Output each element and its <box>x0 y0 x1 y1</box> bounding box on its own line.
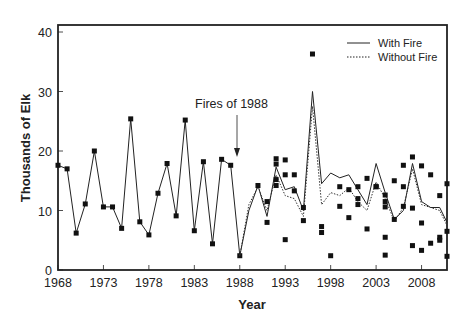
data-point-marker <box>428 172 433 177</box>
x-tick-label: 1993 <box>271 276 299 290</box>
data-point-marker <box>437 238 442 243</box>
data-point-marker <box>283 157 288 162</box>
legend-without-fire: Without Fire <box>378 51 437 63</box>
data-point-marker <box>383 193 388 198</box>
series-line <box>240 106 447 255</box>
data-point-marker <box>445 181 450 186</box>
legend-with-fire: With Fire <box>378 37 422 49</box>
data-point-marker <box>319 230 324 235</box>
chart-canvas: 010203040 196819731978198319881993199820… <box>0 0 464 326</box>
y-tick-label: 40 <box>38 26 52 40</box>
data-point-marker <box>228 163 233 168</box>
data-point-marker <box>419 248 424 253</box>
data-point-marker <box>355 184 360 189</box>
data-point-marker <box>346 215 351 220</box>
data-series <box>56 52 450 259</box>
data-point-marker <box>292 172 297 177</box>
legend: With Fire Without Fire <box>347 37 437 63</box>
data-point-marker <box>383 204 388 209</box>
data-point-marker <box>410 243 415 248</box>
data-point-marker <box>428 241 433 246</box>
data-point-marker <box>265 220 270 225</box>
data-point-marker <box>319 224 324 229</box>
data-point-marker <box>419 220 424 225</box>
data-point-marker <box>283 237 288 242</box>
data-point-marker <box>401 163 406 168</box>
data-point-marker <box>283 172 288 177</box>
data-point-marker <box>383 199 388 204</box>
data-point-marker <box>355 196 360 201</box>
data-point-marker <box>146 232 151 237</box>
x-tick-label: 2003 <box>362 276 390 290</box>
data-point-marker <box>219 157 224 162</box>
data-point-marker <box>445 254 450 259</box>
data-point-marker <box>410 206 415 211</box>
data-point-marker <box>310 52 315 57</box>
data-point-marker <box>255 183 260 188</box>
x-axis-title: Year <box>238 297 265 312</box>
annotation-label: Fires of 1988 <box>195 97 268 111</box>
data-point-marker <box>392 217 397 222</box>
data-point-marker <box>128 116 133 121</box>
x-axis: 196819731978198319881993199820032008 <box>44 265 435 290</box>
y-axis: 010203040 <box>38 26 63 278</box>
data-point-marker <box>119 226 124 231</box>
data-point-marker <box>210 241 215 246</box>
y-axis-title: Thousands of Elk <box>18 93 33 202</box>
data-point-marker <box>383 253 388 258</box>
data-point-marker <box>137 219 142 224</box>
y-tick-label: 10 <box>38 205 52 219</box>
elk-population-chart: 010203040 196819731978198319881993199820… <box>0 0 464 326</box>
fires-1988-annotation: Fires of 1988 <box>195 97 268 157</box>
x-tick-label: 1983 <box>180 276 208 290</box>
data-point-marker <box>56 163 61 168</box>
data-point-marker <box>401 204 406 209</box>
data-point-marker <box>165 161 170 166</box>
data-point-marker <box>274 162 279 167</box>
series-with-fire <box>240 92 447 256</box>
data-point-marker <box>192 228 197 233</box>
x-tick-label: 2008 <box>408 276 436 290</box>
data-point-marker <box>346 187 351 192</box>
data-point-marker <box>274 156 279 161</box>
series-observed-pre-1988- <box>56 116 243 258</box>
data-point-marker <box>365 176 370 181</box>
series-line <box>240 92 447 256</box>
data-point-marker <box>101 204 106 209</box>
data-point-marker <box>265 199 270 204</box>
data-point-marker <box>83 201 88 206</box>
data-point-marker <box>328 253 333 258</box>
data-point-marker <box>445 229 450 234</box>
data-point-marker <box>355 202 360 207</box>
data-point-marker <box>337 204 342 209</box>
data-point-marker <box>174 213 179 218</box>
data-point-marker <box>274 183 279 188</box>
x-tick-label: 1988 <box>226 276 254 290</box>
arrow-down-icon <box>234 148 240 157</box>
y-tick-label: 20 <box>38 145 52 159</box>
data-point-marker <box>410 154 415 159</box>
data-point-marker <box>301 205 306 210</box>
y-tick-label: 30 <box>38 86 52 100</box>
data-point-marker <box>383 235 388 240</box>
data-point-marker <box>437 193 442 198</box>
data-point-marker <box>292 188 297 193</box>
data-point-marker <box>274 177 279 182</box>
x-tick-label: 1978 <box>135 276 163 290</box>
x-tick-label: 1998 <box>317 276 345 290</box>
data-point-marker <box>110 204 115 209</box>
data-point-marker <box>155 191 160 196</box>
data-point-marker <box>401 184 406 189</box>
data-point-marker <box>301 218 306 223</box>
data-point-marker <box>183 118 188 123</box>
data-point-marker <box>92 149 97 154</box>
data-point-marker <box>392 178 397 183</box>
data-point-marker <box>374 184 379 189</box>
data-point-marker <box>365 226 370 231</box>
x-tick-label: 1968 <box>44 276 72 290</box>
data-point-marker <box>419 163 424 168</box>
data-point-marker <box>74 231 79 236</box>
data-point-marker <box>201 159 206 164</box>
series-observed-counts-post-1988- <box>255 52 449 259</box>
data-point-marker <box>337 184 342 189</box>
